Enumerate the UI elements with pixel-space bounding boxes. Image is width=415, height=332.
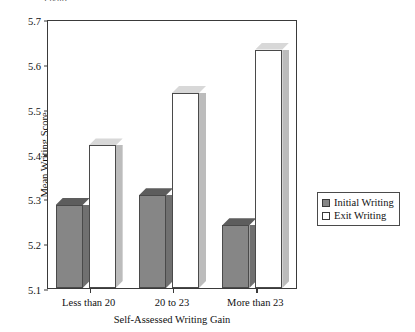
bar-front-face	[139, 195, 166, 288]
bar-front-face	[255, 50, 282, 289]
y-axis-tick: 5.1	[28, 285, 48, 296]
bar-initial-writing-2	[222, 225, 249, 288]
bar-exit-writing-2	[255, 50, 282, 289]
bar-top-face	[89, 138, 123, 145]
legend-item-exit-writing: Exit Writing	[322, 209, 394, 222]
y-axis-tick: 5.7	[28, 16, 48, 27]
y-axis-tick-label: 5.7	[28, 16, 44, 27]
bar-exit-writing-0	[89, 145, 116, 288]
bar-initial-writing-0	[56, 205, 83, 288]
x-axis-tick-mark	[90, 288, 91, 293]
y-axis-tick-mark	[44, 245, 48, 246]
y-axis-tick-mark	[44, 155, 48, 156]
bar-side-face	[282, 50, 289, 289]
bar-initial-writing-1	[139, 195, 166, 288]
x-axis-tick-label: 20 to 23	[155, 297, 189, 308]
legend-label-initial: Initial Writing	[334, 196, 394, 209]
y-axis-tick-label: 5.4	[28, 150, 44, 161]
y-axis-tick: 5.4	[28, 150, 48, 161]
y-axis-tick: 5.3	[28, 195, 48, 206]
x-axis-tick-mark	[256, 288, 257, 293]
bar-side-face	[116, 145, 123, 288]
y-axis-tick-label: 5.2	[28, 240, 44, 251]
chart-legend: Initial Writing Exit Writing	[317, 192, 400, 226]
y-axis-tick-mark	[44, 65, 48, 66]
bar-top-face	[172, 86, 206, 93]
y-axis-tick-label: 5.1	[28, 285, 44, 296]
y-axis-tick-mark	[44, 289, 48, 290]
y-axis-tick-label: 5.6	[28, 60, 44, 71]
bar-front-face	[56, 205, 83, 288]
legend-swatch-icon-exit	[322, 212, 330, 220]
y-axis-tick-mark	[44, 110, 48, 111]
y-axis-tick-mark	[44, 200, 48, 201]
x-axis-tick-mark	[173, 288, 174, 293]
figure-root: Figure Mean Writing Score 5.15.25.35.45.…	[0, 0, 415, 332]
y-axis-tick: 5.6	[28, 60, 48, 71]
bar-exit-writing-1	[172, 93, 199, 288]
bar-top-face	[56, 198, 90, 205]
cropped-title-text: Figure	[44, 0, 69, 1]
bar-front-face	[172, 93, 199, 288]
plot-area: 5.15.25.35.45.55.65.7	[47, 20, 297, 289]
x-axis-tick-label: More than 23	[227, 297, 284, 308]
bar-front-face	[222, 225, 249, 288]
y-axis-tick-label: 5.3	[28, 195, 44, 206]
legend-swatch-icon-initial	[322, 199, 330, 207]
bar-top-face	[255, 43, 289, 50]
y-axis-tick-label: 5.5	[28, 105, 44, 116]
x-axis-label: Self-Assessed Writing Gain	[47, 314, 297, 325]
y-axis-tick: 5.5	[28, 105, 48, 116]
bar-top-face	[222, 218, 256, 225]
y-axis-tick-mark	[44, 20, 48, 21]
y-axis-label-container: Mean Writing Score	[4, 20, 18, 289]
x-axis-tick-label: Less than 20	[62, 297, 115, 308]
legend-item-initial-writing: Initial Writing	[322, 196, 394, 209]
bar-top-face	[139, 188, 173, 195]
bar-front-face	[89, 145, 116, 288]
bar-side-face	[199, 93, 206, 288]
legend-label-exit: Exit Writing	[334, 209, 386, 222]
y-axis-tick: 5.2	[28, 240, 48, 251]
